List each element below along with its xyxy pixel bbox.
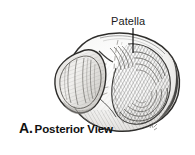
figure-caption: A.Posterior View <box>19 121 113 136</box>
caption-letter: A. <box>19 120 33 136</box>
label-patella: Patella <box>111 15 145 27</box>
anatomy-figure: Patella A.Posterior View <box>0 0 195 155</box>
caption-text: Posterior View <box>35 123 113 135</box>
